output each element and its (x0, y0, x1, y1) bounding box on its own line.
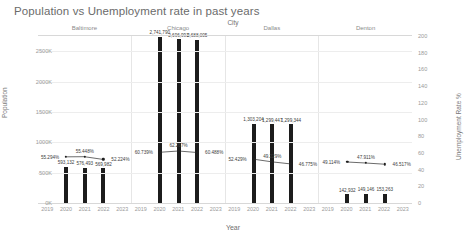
facet-panel-dallas: Dallas1,303,2041,299,4471,299,34452.429%… (225, 36, 319, 203)
line-value-label: 46.517% (393, 162, 411, 167)
line-point (84, 155, 86, 157)
line-value-label: 52.429% (228, 157, 246, 162)
facet-panel-denton: Denton142,932149,146153,26349.114%47.911… (318, 36, 412, 203)
x-tick-label: 2022 (191, 206, 203, 212)
x-tick-label: 2020 (341, 206, 353, 212)
y2-tick-label: 120 (418, 100, 427, 106)
facet-strip-label: Chicago (132, 25, 225, 31)
bar (195, 40, 199, 203)
line-point (346, 161, 348, 163)
x-tick-label: 2022 (284, 206, 296, 212)
y-tick-label: 500K (12, 170, 52, 176)
x-axis-line (38, 203, 412, 204)
bar (383, 194, 387, 203)
y-tick-label: 2500K (12, 48, 52, 54)
x-tick-label: 2020 (154, 206, 166, 212)
x-tick-label: 2023 (303, 206, 315, 212)
y-tick-label: 1000K (12, 139, 52, 145)
line-value-label: 60.739% (135, 150, 153, 155)
gridline (38, 112, 412, 113)
y2-tick-label: 80 (418, 133, 424, 139)
facet-strip-label: Denton (319, 25, 412, 31)
bar-value-label: 576,493 (76, 161, 93, 166)
facet-strip-rule (38, 35, 412, 36)
bar (345, 194, 349, 203)
line-value-label: 55.294% (41, 154, 59, 159)
x-tick-label: 2021 (359, 206, 371, 212)
bar-value-label: 593,132 (58, 160, 75, 165)
unemployment-line (319, 36, 412, 203)
y2-tick-label: 40 (418, 167, 424, 173)
bar-value-label: 142,932 (339, 188, 356, 193)
plot-area: Baltimore593,132576,493569,98255.294%55.… (38, 36, 412, 203)
x-tick-label: 2019 (135, 206, 147, 212)
bar (158, 37, 162, 204)
line-value-label: 46.775% (299, 161, 317, 166)
line-value-label: 55.448% (76, 148, 94, 153)
line-value-label: 49.114% (322, 159, 340, 164)
y2-tick-label: 200 (418, 33, 427, 39)
line-value-label: 52.224% (111, 157, 129, 162)
facet-strip-label: Baltimore (38, 25, 131, 31)
line-point (102, 158, 104, 160)
bar-value-label: 1,299,447 (262, 118, 282, 123)
bar-value-label: 1,299,344 (281, 118, 301, 123)
bar-value-label: 569,982 (95, 162, 112, 167)
line-value-label: 60.488% (205, 150, 223, 155)
y2-tick-label: 100 (418, 117, 427, 123)
x-tick-label: 2021 (79, 206, 91, 212)
x-tick-label: 2019 (228, 206, 240, 212)
bar-value-label: 149,146 (358, 187, 375, 192)
y2-tick-label: 160 (418, 66, 427, 72)
x-tick-label: 2020 (60, 206, 72, 212)
bar (177, 39, 181, 203)
y-tick-label: 1500K (12, 109, 52, 115)
secondary-y-axis-label: Unemployment Rate % (455, 93, 462, 160)
bar-value-label: 1,303,204 (243, 117, 263, 122)
y-axis-label: Population (1, 87, 8, 118)
x-tick-label: 2019 (41, 206, 53, 212)
facet-panel-baltimore: Baltimore593,132576,493569,98255.294%55.… (38, 36, 131, 203)
x-tick-label: 2019 (322, 206, 334, 212)
line-value-label: 49.229% (263, 153, 281, 158)
x-axis-label: Year (0, 224, 466, 231)
chart-container: Population vs Unemployment rate in past … (0, 0, 466, 241)
chart-title: Population vs Unemployment rate in past … (14, 5, 259, 17)
bar-value-label: 153,263 (376, 187, 393, 192)
x-tick-label: 2023 (210, 206, 222, 212)
x-tick-label: 2021 (172, 206, 184, 212)
gridline (38, 173, 412, 174)
line-value-label: 47.911% (357, 154, 375, 159)
y2-tick-label: 140 (418, 83, 427, 89)
facet-panel-chicago: Chicago2,741,7902,696,9932,688,00560.739… (131, 36, 225, 203)
x-tick-label: 2023 (116, 206, 128, 212)
line-point (365, 162, 367, 164)
y2-tick-label: 0 (418, 200, 421, 206)
x-tick-label: 2022 (378, 206, 390, 212)
bar (364, 194, 368, 203)
y-tick-label: 2000K (12, 79, 52, 85)
x-tick-label: 2022 (97, 206, 109, 212)
y2-tick-label: 180 (418, 50, 427, 56)
x-tick-label: 2021 (266, 206, 278, 212)
x-tick-label: 2020 (247, 206, 259, 212)
y2-tick-label: 20 (418, 183, 424, 189)
gridline (38, 142, 412, 143)
line-point (65, 156, 67, 158)
y2-tick-label: 60 (418, 150, 424, 156)
bar (270, 124, 274, 203)
x-tick-label: 2023 (397, 206, 409, 212)
gridline (38, 82, 412, 83)
gridline (38, 51, 412, 52)
facet-panels: Baltimore593,132576,493569,98255.294%55.… (38, 36, 412, 203)
line-point (383, 163, 385, 165)
facet-strip-label: Dallas (226, 25, 319, 31)
bar (252, 124, 256, 203)
